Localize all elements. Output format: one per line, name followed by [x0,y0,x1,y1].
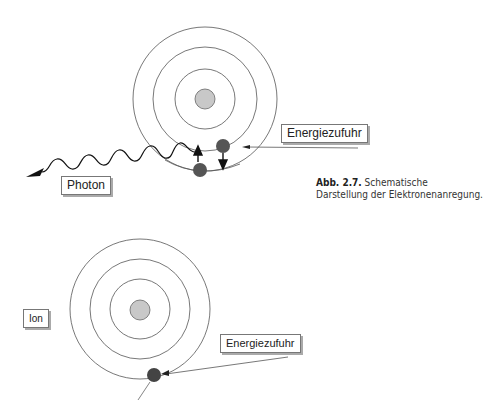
bottom-nucleus [130,300,150,320]
photon-arrowhead [26,168,44,177]
excited-electron [216,139,230,153]
caption-number: Abb. 2.7. [316,177,362,188]
figure-caption: Abb. 2.7. Schematische Darstellung der E… [316,177,483,201]
ejected-electron [147,368,161,382]
energy-input-label-bottom: Energiezufuhr [220,334,301,353]
ground-electron [193,163,207,177]
energy-input-label-top: Energiezufuhr [281,124,368,143]
photon-label: Photon [61,176,111,195]
caption-line1: Schematische [365,177,428,188]
ion-label: Ion [23,309,49,328]
top-nucleus [195,89,215,109]
caption-line2: Darstellung der Elektronenanregung. [316,189,483,200]
electron-trajectory [138,382,150,400]
photon-wave [42,143,195,172]
